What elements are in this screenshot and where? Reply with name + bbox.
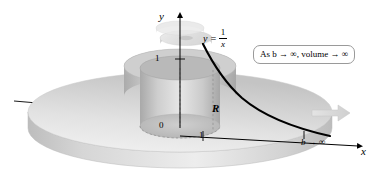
equation-denominator: x	[219, 39, 227, 49]
curve-equation-label: y = 1 x	[203, 28, 227, 49]
equation-numerator: 1	[219, 28, 228, 38]
region-label: R	[212, 103, 219, 114]
equation-fraction: 1 x	[219, 28, 228, 49]
solid-of-revolution-figure: y x 0 1 1 R b → ∞ y = 1 x As b → ∞, volu…	[0, 0, 377, 182]
x-axis-label: x	[361, 146, 366, 157]
y-axis-label: y	[159, 11, 164, 22]
equation-lhs: y =	[203, 34, 217, 44]
figure-canvas	[0, 0, 377, 182]
origin-label: 0	[159, 121, 164, 130]
annotation-callout: As b → ∞, volume → ∞	[253, 45, 355, 64]
y-tick-label-one: 1	[155, 54, 160, 63]
b-limit-label: b → ∞	[301, 138, 325, 147]
x-tick-label-one: 1	[199, 131, 204, 140]
